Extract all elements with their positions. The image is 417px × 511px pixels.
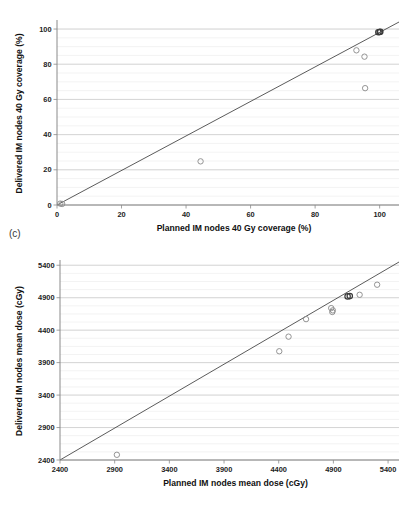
panel-label-c: (c) bbox=[9, 228, 21, 239]
x-tick-label: 2400 bbox=[52, 465, 68, 474]
y-tick-label: 0 bbox=[47, 201, 51, 210]
data-point bbox=[374, 282, 379, 287]
x-tick-label: 5400 bbox=[380, 465, 396, 474]
x-tick-label: 4900 bbox=[325, 465, 341, 474]
x-tick-label: 2900 bbox=[106, 465, 122, 474]
data-point bbox=[357, 292, 362, 297]
y-tick-label: 80 bbox=[43, 60, 51, 69]
data-point bbox=[286, 334, 291, 339]
y-tick-label: 3900 bbox=[38, 358, 54, 367]
x-tick-label: 40 bbox=[182, 210, 190, 219]
y-tick-label: 4400 bbox=[38, 326, 54, 335]
y-tick-label: 2400 bbox=[38, 456, 54, 465]
x-tick-label: 4400 bbox=[270, 465, 286, 474]
data-point bbox=[354, 48, 359, 53]
x-tick-label: 80 bbox=[311, 210, 319, 219]
data-point bbox=[362, 54, 367, 59]
y-tick-label: 100 bbox=[39, 25, 51, 34]
scatter-panel-c: 020406080100020406080100Planned IM nodes… bbox=[0, 0, 417, 255]
x-axis-title: Planned IM nodes 40 Gy coverage (%) bbox=[157, 223, 312, 233]
x-tick-label: 0 bbox=[55, 210, 59, 219]
y-tick-label: 60 bbox=[43, 95, 51, 104]
y-axis-title: Delivered IM nodes 40 Gy coverage (%) bbox=[14, 33, 24, 193]
y-tick-label: 40 bbox=[43, 130, 51, 139]
identity-reference-line bbox=[60, 262, 399, 460]
y-tick-label: 3400 bbox=[38, 391, 54, 400]
x-tick-label: 100 bbox=[373, 210, 385, 219]
x-tick-label: 60 bbox=[246, 210, 254, 219]
data-point bbox=[362, 85, 367, 90]
figure-page: 020406080100020406080100Planned IM nodes… bbox=[0, 0, 417, 511]
data-point bbox=[198, 159, 203, 164]
data-point bbox=[277, 349, 282, 354]
scatter-plot-c: 020406080100020406080100Planned IM nodes… bbox=[0, 0, 417, 255]
y-tick-label: 20 bbox=[43, 165, 51, 174]
identity-reference-line bbox=[57, 22, 399, 205]
y-axis-title: Delivered IM nodes mean dose (cGy) bbox=[14, 286, 24, 436]
x-tick-label: 3400 bbox=[161, 465, 177, 474]
scatter-plot-d: 2400290034003900440049005400240029003400… bbox=[0, 255, 417, 511]
data-point bbox=[114, 452, 119, 457]
x-tick-label: 20 bbox=[117, 210, 125, 219]
data-point bbox=[303, 316, 308, 321]
data-point-group bbox=[114, 282, 380, 457]
grid-minor-horizontal bbox=[57, 29, 399, 205]
y-tick-label: 4900 bbox=[38, 293, 54, 302]
x-tick-label: 3900 bbox=[216, 465, 232, 474]
y-tick-label: 2900 bbox=[38, 423, 54, 432]
scatter-panel-d: 2400290034003900440049005400240029003400… bbox=[0, 255, 417, 511]
y-tick-label: 5400 bbox=[38, 261, 54, 270]
x-axis-title: Planned IM nodes mean dose (cGy) bbox=[163, 478, 308, 488]
